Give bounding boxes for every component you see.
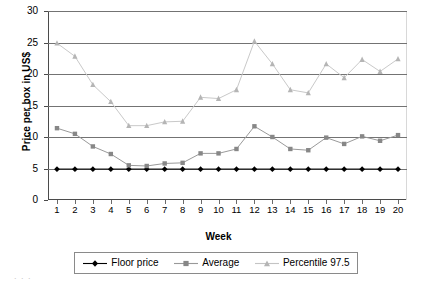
data-point-marker (162, 161, 166, 165)
data-point-marker (377, 68, 382, 73)
data-point-marker (73, 132, 77, 136)
data-point-marker (216, 151, 220, 155)
data-point-marker (378, 139, 382, 143)
data-point-marker (72, 53, 77, 58)
y-axis-tick (44, 200, 48, 201)
data-point-marker (108, 166, 114, 172)
legend-swatch-diamond-icon (82, 258, 108, 269)
data-point-marker (180, 161, 184, 165)
chart-legend: Floor price Average Percentile 97.5 (74, 252, 358, 274)
y-axis-tick-label: 15 (8, 101, 38, 111)
x-axis-tick-label: 20 (387, 205, 409, 215)
data-point-marker (145, 164, 149, 168)
data-point-marker (342, 142, 346, 146)
data-point-marker (72, 166, 78, 172)
y-axis-tick-label: 10 (8, 132, 38, 142)
data-point-marker (198, 166, 204, 172)
legend-item-floor-price[interactable]: Floor price (82, 258, 158, 269)
data-point-marker (180, 166, 186, 172)
data-point-marker (162, 166, 168, 172)
data-point-marker (216, 166, 222, 172)
data-point-marker (90, 166, 96, 172)
data-point-marker (341, 166, 347, 172)
data-point-marker (359, 166, 365, 172)
data-point-marker (234, 166, 240, 172)
chart-container: Price per box in US$ 051015202530 123456… (0, 0, 437, 282)
legend-swatch-triangle-icon (254, 258, 280, 269)
x-axis-title: Week (0, 231, 437, 242)
data-point-marker (252, 166, 258, 172)
data-point-marker (323, 166, 329, 172)
data-point-marker (54, 166, 60, 172)
series-average (55, 124, 400, 168)
data-point-marker (234, 147, 238, 151)
data-point-marker (395, 56, 400, 61)
data-point-marker (324, 61, 329, 66)
data-point-marker (360, 134, 364, 138)
series-line (57, 41, 398, 125)
data-point-marker (55, 126, 59, 130)
legend-label-average: Average (202, 258, 239, 268)
y-axis-tick-label: 5 (8, 164, 38, 174)
data-point-marker (305, 166, 311, 172)
y-axis-tick-label: 25 (8, 38, 38, 48)
data-point-marker (270, 135, 274, 139)
data-point-marker (198, 151, 202, 155)
data-point-marker (252, 124, 256, 128)
data-point-marker (234, 87, 239, 92)
data-point-marker (127, 163, 131, 167)
data-point-marker (306, 148, 310, 152)
legend-label-percentile: Percentile 97.5 (283, 258, 350, 268)
data-point-marker (396, 133, 400, 137)
series-layer (48, 11, 407, 200)
page-artifact: . . . (14, 271, 32, 281)
data-point-marker (288, 147, 292, 151)
data-point-marker (269, 166, 275, 172)
data-point-marker (91, 144, 95, 148)
data-point-marker (360, 57, 365, 62)
data-point-marker (395, 166, 401, 172)
y-axis-tick-label: 20 (8, 69, 38, 79)
data-point-marker (287, 166, 293, 172)
data-point-marker (324, 135, 328, 139)
y-axis-tick-label: 0 (8, 195, 38, 205)
data-point-marker (252, 38, 257, 43)
series-line (57, 126, 398, 166)
legend-swatch-square-icon (173, 258, 199, 269)
data-point-marker (377, 166, 383, 172)
data-point-marker (54, 40, 59, 45)
legend-item-average[interactable]: Average (173, 258, 239, 269)
series-floor-price (54, 166, 401, 172)
y-axis-tick-label: 30 (8, 6, 38, 16)
legend-label-floor-price: Floor price (111, 258, 158, 268)
legend-item-percentile[interactable]: Percentile 97.5 (254, 258, 350, 269)
series-percentile-97-5 (54, 38, 400, 128)
data-point-marker (109, 152, 113, 156)
